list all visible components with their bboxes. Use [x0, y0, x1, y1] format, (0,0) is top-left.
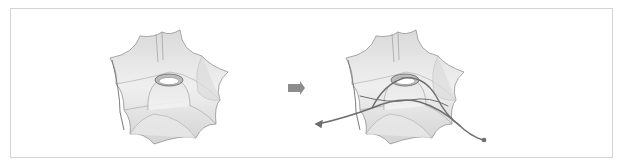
membrane-structure-after: [346, 30, 464, 144]
figure-canvas: [0, 0, 626, 165]
transition-arrow-icon: [288, 81, 305, 95]
membrane-structure-before: [110, 30, 228, 144]
